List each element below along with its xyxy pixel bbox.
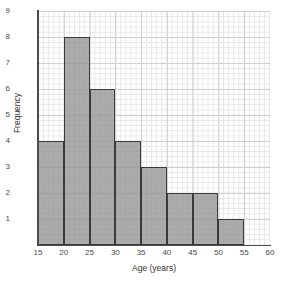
y-axis-spine bbox=[37, 10, 39, 246]
histogram-bar bbox=[64, 37, 90, 245]
histogram-figure: 123456789 15202530354045505560 Age (year… bbox=[0, 0, 282, 284]
y-tick-label: 6 bbox=[0, 85, 10, 93]
y-tick-label: 5 bbox=[0, 111, 10, 119]
y-tick-label: 9 bbox=[0, 7, 10, 15]
histogram-bar bbox=[218, 219, 244, 245]
y-tick-label: 8 bbox=[0, 33, 10, 41]
histogram-bar bbox=[167, 193, 193, 245]
y-tick-label: 1 bbox=[0, 215, 10, 223]
y-tick-label: 3 bbox=[0, 163, 10, 171]
x-axis-spine bbox=[37, 245, 271, 247]
y-tick-label: 4 bbox=[0, 137, 10, 145]
histogram-bar bbox=[193, 193, 219, 245]
x-tick-label: 60 bbox=[255, 249, 282, 257]
histogram-bar bbox=[38, 141, 64, 245]
histogram-bar bbox=[90, 89, 116, 245]
y-tick-label: 7 bbox=[0, 59, 10, 67]
bar-series bbox=[38, 11, 270, 245]
histogram-bar bbox=[141, 167, 167, 245]
plot-area bbox=[38, 11, 270, 245]
histogram-bar bbox=[115, 141, 141, 245]
y-tick-label: 2 bbox=[0, 189, 10, 197]
y-axis-title: Frequency bbox=[12, 63, 22, 163]
x-axis-title: Age (years) bbox=[38, 263, 270, 273]
